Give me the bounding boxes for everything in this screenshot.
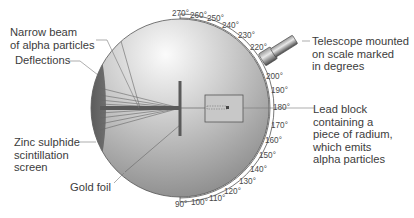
label-deflections: Deflections <box>15 54 70 67</box>
svg-text:240°: 240° <box>222 21 239 30</box>
label-line: in degrees <box>312 60 409 73</box>
label-lead-block: Lead block containing a piece of radium,… <box>313 103 393 166</box>
svg-text:100°: 100° <box>191 198 208 207</box>
label-line: containing a <box>313 116 393 129</box>
label-line: Narrow beam <box>10 26 95 39</box>
label-line: Telescope mounted <box>312 35 409 48</box>
svg-text:130°: 130° <box>239 177 256 186</box>
svg-text:190°: 190° <box>271 86 288 95</box>
svg-text:260°: 260° <box>190 11 207 20</box>
svg-text:110°: 110° <box>209 194 225 203</box>
svg-text:200°: 200° <box>266 72 283 81</box>
svg-text:180°: 180° <box>273 103 290 112</box>
lead-block <box>205 95 243 122</box>
svg-text:270°: 270° <box>172 9 189 18</box>
label-line: on scale marked <box>312 48 409 61</box>
label-line: Zinc sulphide <box>14 136 80 149</box>
label-gold-foil: Gold foil <box>70 181 111 194</box>
svg-text:90°: 90° <box>175 200 187 209</box>
svg-text:220°: 220° <box>250 43 267 52</box>
label-line: alpha particles <box>313 153 393 166</box>
label-narrow-beam: Narrow beam of alpha particles <box>10 26 95 51</box>
svg-text:170°: 170° <box>271 121 288 130</box>
label-line: of alpha particles <box>10 39 95 52</box>
svg-text:230°: 230° <box>238 31 255 40</box>
svg-text:160°: 160° <box>265 136 282 145</box>
gold-foil <box>179 81 182 136</box>
label-line: screen <box>14 161 80 174</box>
svg-text:140°: 140° <box>250 165 267 174</box>
label-line: scintillation <box>14 149 80 162</box>
alpha-beam <box>100 106 180 110</box>
label-line: piece of radium, <box>313 128 393 141</box>
label-telescope: Telescope mounted on scale marked in deg… <box>312 35 409 73</box>
label-line: which emits <box>313 141 393 154</box>
label-zinc-sulphide-screen: Zinc sulphide scintillation screen <box>14 136 80 174</box>
label-line: Lead block <box>313 103 393 116</box>
svg-text:120°: 120° <box>224 187 241 196</box>
svg-text:150°: 150° <box>259 151 276 160</box>
